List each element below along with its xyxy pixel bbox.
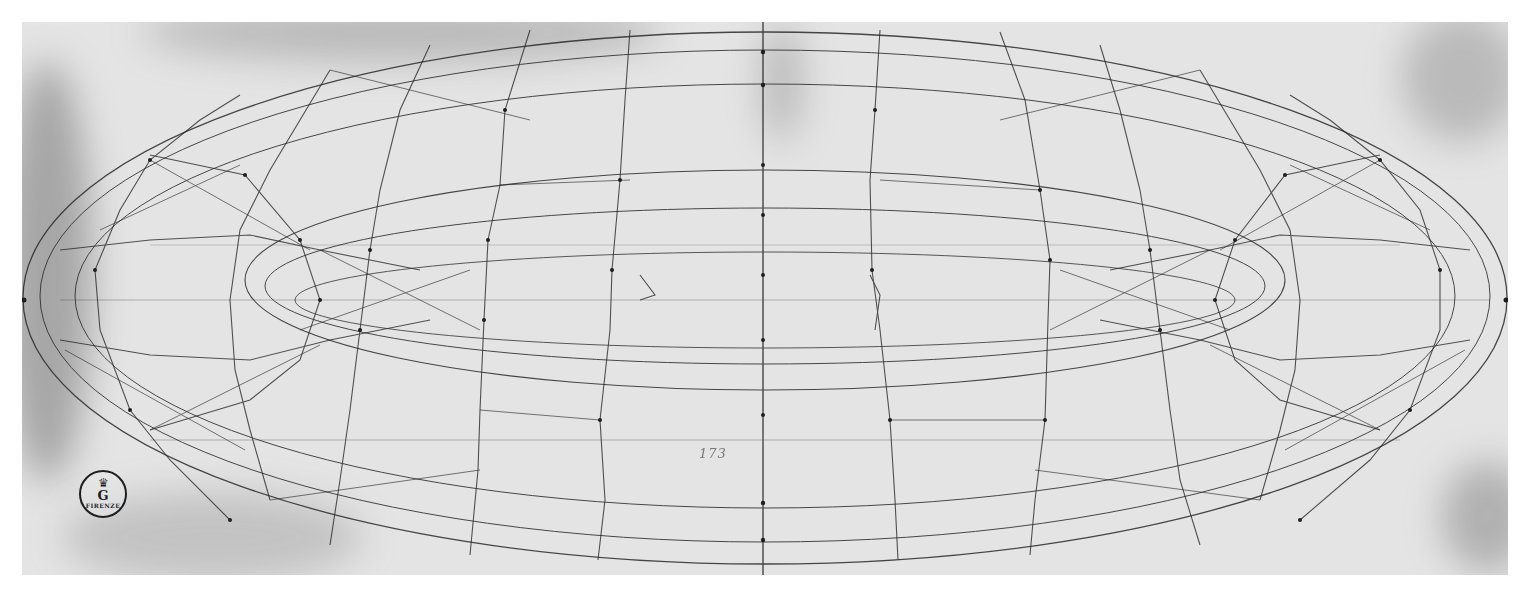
stamp-city: FIRENZE bbox=[86, 502, 121, 509]
torus-wireframe-drawing bbox=[22, 22, 1508, 575]
drawing-sheet: 173 bbox=[22, 22, 1508, 575]
collection-stamp: ♛ G FIRENZE bbox=[79, 470, 127, 518]
stamp-letter: G bbox=[97, 489, 108, 502]
faint-inscription: 173 bbox=[699, 446, 727, 461]
